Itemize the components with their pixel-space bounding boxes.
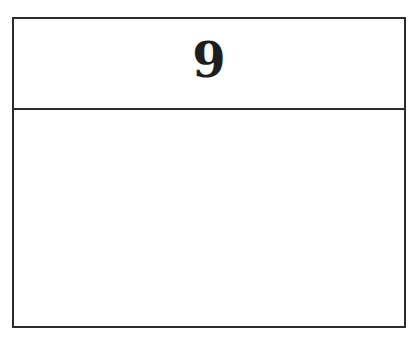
card-number: 9 [192, 36, 225, 84]
card-header: 9 [14, 19, 404, 110]
card-body-empty-area [14, 110, 404, 326]
number-card: 9 [12, 17, 406, 328]
